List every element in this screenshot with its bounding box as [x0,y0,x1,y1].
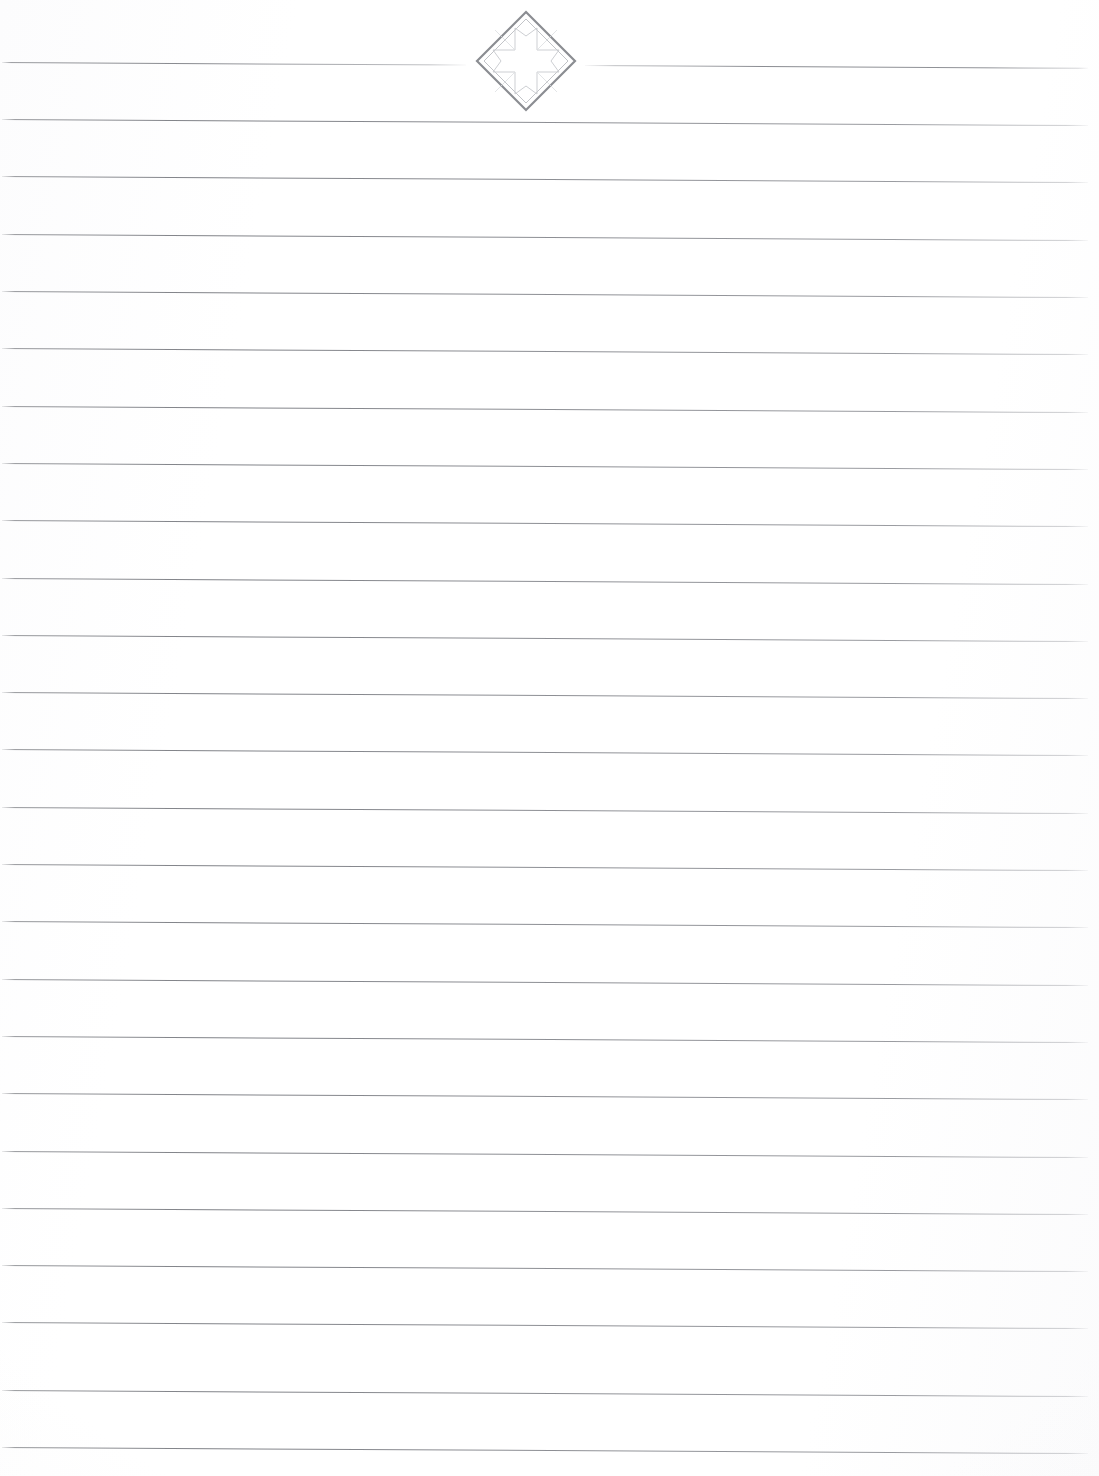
ruled-line-left-segment [2,62,466,66]
ruled-line [2,463,1088,470]
ruled-line [2,578,1088,585]
ruled-line [2,1265,1088,1272]
ruled-line [2,921,1088,928]
ruled-line [2,1447,1088,1454]
ruled-line [2,1093,1088,1100]
ruled-line [2,1390,1088,1397]
ruled-line [2,1208,1088,1215]
ruled-line [2,1036,1088,1043]
diamond-compass-rose-ornament [474,9,578,113]
ornament-diagonal-spokes [495,30,557,92]
ruled-line [2,406,1088,413]
ruled-lines-layer [0,0,1099,1476]
ruled-line [2,692,1088,699]
ruled-line [2,176,1088,183]
ruled-line [2,348,1088,355]
ruled-line [2,234,1088,241]
ruled-line [2,807,1088,814]
ruled-line [2,979,1088,986]
ruled-line [2,635,1088,642]
ruled-line [2,1151,1088,1158]
ruled-line [2,1322,1088,1329]
ornament-outer-diamond [477,12,575,110]
ruled-line [2,749,1088,756]
ornament-svg [474,9,578,113]
ruled-line-right-segment [585,65,1088,69]
stationery-page [0,0,1099,1476]
ruled-line [2,119,1088,126]
ruled-line [2,291,1088,298]
ruled-line [2,864,1088,871]
ruled-line [2,520,1088,527]
